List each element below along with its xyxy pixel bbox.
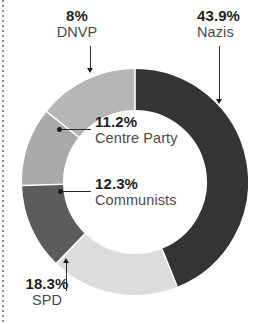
leader-line-communists bbox=[62, 191, 91, 192]
donut-slice-spd[interactable] bbox=[71, 249, 170, 275]
slice-name-centre-party: Centre Party bbox=[95, 130, 178, 147]
chart-canvas: 43.9% Nazis 8% DNVP 18.3% SPD 11.2% Cent… bbox=[0, 0, 273, 324]
leader-arrow-spd bbox=[63, 258, 69, 263]
slice-label-centre-party: 11.2% Centre Party bbox=[95, 113, 178, 147]
slice-value-spd: 18.3% bbox=[12, 275, 82, 292]
slice-name-communists: Communists bbox=[95, 192, 177, 209]
slice-value-nazis: 43.9% bbox=[197, 7, 240, 24]
leader-arrow-dnvp bbox=[87, 68, 93, 73]
slice-value-communists: 12.3% bbox=[95, 175, 177, 192]
leader-line-dnvp bbox=[90, 46, 91, 69]
slice-name-spd: SPD bbox=[12, 292, 82, 309]
leader-line-nazis bbox=[219, 46, 220, 100]
slice-name-dnvp: DNVP bbox=[46, 24, 108, 41]
page-edge-dotted-rule bbox=[2, 0, 4, 324]
slice-label-dnvp: 8% DNVP bbox=[46, 7, 108, 41]
donut-slice-centre-party[interactable] bbox=[43, 124, 63, 185]
slice-name-nazis: Nazis bbox=[197, 24, 240, 41]
slice-label-spd: 18.3% SPD bbox=[12, 275, 82, 309]
leader-arrow-nazis bbox=[216, 99, 222, 104]
slice-value-centre-party: 11.2% bbox=[95, 113, 178, 130]
slice-label-nazis: 43.9% Nazis bbox=[197, 7, 240, 41]
slice-label-communists: 12.3% Communists bbox=[95, 175, 177, 209]
slice-value-dnvp: 8% bbox=[46, 7, 108, 24]
leader-line-centre-party bbox=[61, 129, 91, 130]
donut-slice-communists[interactable] bbox=[43, 185, 71, 249]
